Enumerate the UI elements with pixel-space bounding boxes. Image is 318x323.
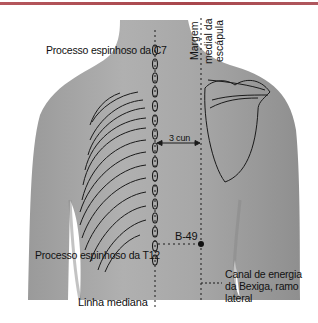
label-scapula-margin-3: escápula	[214, 20, 225, 62]
label-c7: Processo espinhoso da C7	[46, 44, 167, 56]
label-scapula-margin-1: Margem	[189, 21, 200, 60]
label-channel-2: da Bexiga, ramo	[225, 280, 298, 292]
label-b49: B-49	[175, 230, 197, 242]
label-channel-1: Canal de energia	[225, 268, 302, 280]
label-t12: Processo espinhoso da T12	[35, 249, 160, 261]
b49-point	[198, 241, 204, 247]
label-channel-3: lateral	[225, 292, 252, 304]
label-three-cun: 3 cun	[169, 132, 190, 144]
label-midline: Linha mediana	[78, 296, 148, 308]
